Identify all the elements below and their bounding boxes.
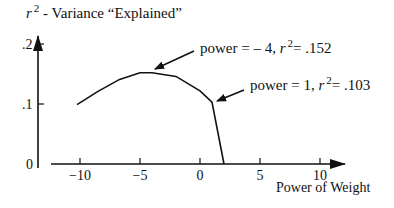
y-ticks: 0.1.2 xyxy=(22,37,44,172)
y-tick-label: .1 xyxy=(22,97,33,112)
annotation-arrow-kink xyxy=(217,90,244,101)
chart: r2 - Variance “Explained” 0.1.2 −10−5051… xyxy=(0,0,394,208)
y-tick-label: .2 xyxy=(22,37,33,52)
x-tick-label: 0 xyxy=(197,168,204,183)
annotation-peak: power = – 4, r2= .152 xyxy=(200,37,332,56)
x-axis-label: Power of Weight xyxy=(276,180,370,195)
annotation-kink: power = 1, r2= .103 xyxy=(250,74,370,93)
y-axis-label: r2 - Variance “Explained” xyxy=(26,2,182,21)
x-tick-label: −5 xyxy=(133,168,148,183)
series-line xyxy=(77,73,224,164)
y-tick-label: 0 xyxy=(26,157,33,172)
x-tick-label: −10 xyxy=(69,168,91,183)
annotation-arrow-peak xyxy=(155,51,194,69)
x-tick-label: 5 xyxy=(257,168,264,183)
